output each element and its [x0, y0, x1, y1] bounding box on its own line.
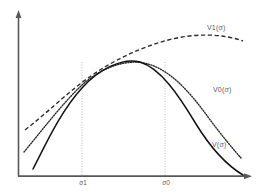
curve-label-v: V(σ)	[212, 141, 226, 148]
curve-label-v1: V1(σ)	[207, 24, 226, 31]
arrowhead-up-icon	[16, 10, 22, 18]
tick-label-sigma0: σ0	[156, 180, 176, 187]
curve-v0	[24, 62, 241, 158]
curve-label-v0: V0(σ)	[213, 86, 232, 93]
arrowhead-right-icon	[244, 173, 252, 179]
value-function-diagram: V1(σ) V0(σ) V(σ) σ1 σ0	[0, 0, 264, 194]
tick-label-sigma1: σ1	[73, 180, 93, 187]
curve-v1	[25, 35, 243, 130]
curve-v	[33, 61, 243, 175]
